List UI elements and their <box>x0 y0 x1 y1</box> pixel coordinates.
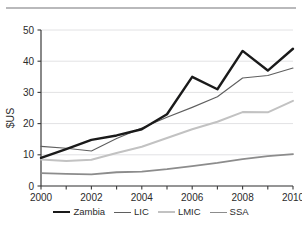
y-axis-tick-label: 30 <box>23 87 35 98</box>
chart-legend: ZambiaLICLMICSSA <box>0 203 302 221</box>
legend-item-lic[interactable]: LIC <box>114 207 149 217</box>
gridlines-group <box>41 30 293 186</box>
legend-swatch-lic <box>114 212 131 213</box>
series-line-ssa <box>41 154 293 174</box>
legend-swatch-lmic <box>158 211 175 213</box>
y-axis-title: $US <box>4 108 16 128</box>
y-axis-tick-label: 10 <box>23 149 35 160</box>
y-axis-tick-labels: 01020304050 <box>23 25 35 192</box>
x-axis-tick-label: 2010 <box>282 192 302 203</box>
data-series-group <box>41 49 293 175</box>
legend-label: Zambia <box>73 207 105 217</box>
legend-swatch-zambia <box>53 211 70 213</box>
header-divider <box>6 7 296 9</box>
series-line-lmic <box>41 101 293 161</box>
x-axis-tick-label: 2004 <box>131 192 154 203</box>
legend-item-lmic[interactable]: LMIC <box>158 207 201 217</box>
legend-label: LIC <box>134 207 149 217</box>
chart-svg: 01020304050 200020022004200620082010 $US <box>0 14 302 210</box>
chart-plot-area: 01020304050 200020022004200620082010 $US <box>0 14 302 210</box>
x-axis-tick-label: 2002 <box>80 192 103 203</box>
y-axis-tick-label: 40 <box>23 56 35 67</box>
legend-label: SSA <box>230 207 249 217</box>
y-axis-tick-label: 20 <box>23 118 35 129</box>
y-axis-tick-label: 0 <box>28 181 34 192</box>
x-axis-tick-labels: 200020022004200620082010 <box>30 192 302 203</box>
legend-item-zambia[interactable]: Zambia <box>53 207 105 217</box>
legend-swatch-ssa <box>210 212 227 213</box>
x-axis-tick-label: 2000 <box>30 192 53 203</box>
line-chart-figure: 01020304050 200020022004200620082010 $US… <box>0 0 302 225</box>
legend-item-ssa[interactable]: SSA <box>210 207 249 217</box>
y-axis-tick-label: 50 <box>23 25 35 36</box>
series-line-zambia <box>41 49 293 158</box>
x-axis-tick-label: 2008 <box>231 192 254 203</box>
legend-label: LMIC <box>178 207 201 217</box>
x-axis-tick-label: 2006 <box>181 192 204 203</box>
